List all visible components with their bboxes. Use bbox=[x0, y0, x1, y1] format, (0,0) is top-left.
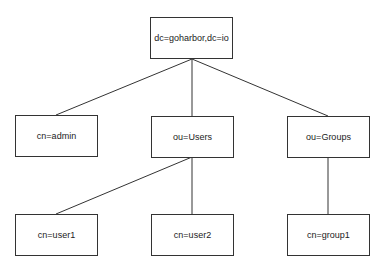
node-user2: cn=user2 bbox=[151, 214, 234, 256]
node-admin: cn=admin bbox=[15, 115, 98, 157]
edge-root-groups bbox=[192, 59, 328, 116]
node-user1: cn=user1 bbox=[15, 214, 98, 256]
node-group1: cn=group1 bbox=[287, 214, 370, 256]
node-users: ou=Users bbox=[151, 116, 234, 158]
node-root: dc=goharbor,dc=io bbox=[150, 17, 233, 59]
node-groups: ou=Groups bbox=[287, 116, 370, 158]
edge-root-admin bbox=[56, 59, 192, 115]
edge-users-user1 bbox=[56, 157, 192, 214]
